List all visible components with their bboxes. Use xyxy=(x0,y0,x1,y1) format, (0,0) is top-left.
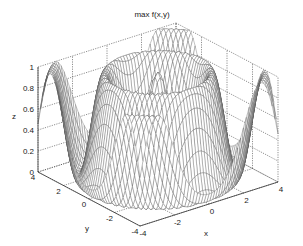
z-axis-label: z xyxy=(12,112,16,121)
tick-label: 1 xyxy=(30,63,35,72)
tick-label: -2 xyxy=(174,218,182,227)
x-axis-label: x xyxy=(204,229,208,238)
tick-label: -4 xyxy=(139,229,147,238)
surface-plot: max f(x,y) z y x 00.20.40.60.81-4-2024-4… xyxy=(0,0,303,246)
tick-label: -2 xyxy=(106,214,114,223)
tick-label: 0.8 xyxy=(23,84,35,93)
tick-label: 0.4 xyxy=(23,126,35,135)
tick-label: 2 xyxy=(56,187,61,196)
tick-label: 4 xyxy=(279,185,284,194)
tick-label: 0.6 xyxy=(23,105,35,114)
y-axis-label: y xyxy=(85,224,89,233)
tick-label: 2 xyxy=(244,196,249,205)
chart-title: max f(x,y) xyxy=(134,10,169,19)
surface-mesh xyxy=(38,29,278,210)
tick-label: 0.2 xyxy=(23,147,35,156)
tick-label: 0 xyxy=(82,200,87,209)
tick-label: -4 xyxy=(131,227,139,236)
tick-label: 4 xyxy=(31,173,36,182)
tick-label: 0 xyxy=(210,207,215,216)
